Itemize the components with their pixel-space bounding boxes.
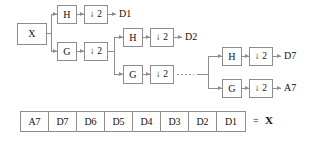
arrow-a7 [277, 86, 281, 90]
downsampler-g-stage-1: ↓ 2 [84, 42, 108, 61]
vector-cell: D7 [49, 112, 77, 131]
vector-cell: A7 [21, 112, 49, 131]
filter-g-stage-7: G [222, 79, 242, 98]
input-node-x: X [17, 23, 47, 45]
filter-h-stage-2: H [123, 28, 143, 47]
downsampler-h-stage-1: ↓ 2 [84, 5, 108, 24]
diagram-canvas: X H ↓ 2 D1 G ↓ 2 H ↓ 2 D2 G ↓ 2 H [0, 0, 312, 141]
downsampler-g-stage-2: ↓ 2 [150, 65, 174, 84]
output-label-d2: D2 [185, 32, 197, 42]
wire-trunk-1 [51, 14, 52, 52]
filter-h-stage-7: H [222, 47, 242, 66]
filter-h-stage-1: H [57, 5, 77, 24]
vector-cell: D6 [77, 112, 105, 131]
equals-sign: = [253, 116, 259, 126]
downsampler-h-stage-2: ↓ 2 [150, 28, 174, 47]
filter-g-stage-2: G [123, 65, 143, 84]
downsampler-g-stage-7: ↓ 2 [249, 79, 273, 98]
coefficient-vector: A7 D7 D6 D5 D4 D3 D2 D1 [20, 111, 246, 132]
vector-cell: D4 [133, 112, 161, 131]
arrow-d2 [178, 35, 182, 39]
downsampler-h-stage-7: ↓ 2 [249, 47, 273, 66]
wire-trunk-3 [208, 56, 209, 89]
vector-cell: D2 [189, 112, 217, 131]
vector-cell: D1 [217, 112, 245, 131]
output-label-d1: D1 [119, 9, 131, 19]
output-label-d7: D7 [284, 51, 296, 61]
vector-result-x: X [265, 115, 273, 126]
arrow-d1 [112, 12, 116, 16]
continuation-dots [177, 74, 194, 75]
filter-g-stage-1: G [57, 42, 77, 61]
arrow-d7 [277, 54, 281, 58]
vector-cell: D5 [105, 112, 133, 131]
vector-cell: D3 [161, 112, 189, 131]
wire-trunk-2 [114, 37, 115, 75]
output-label-a7: A7 [284, 83, 296, 93]
